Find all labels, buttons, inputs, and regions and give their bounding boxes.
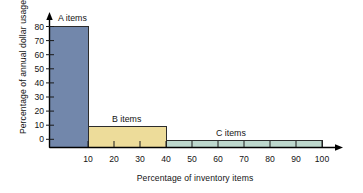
series-label-a-items: A items: [58, 13, 87, 23]
series-label-c-items: C items: [216, 128, 246, 138]
series-label-b-items: B items: [112, 114, 141, 124]
chart-container: Percentage of annual dollar usage Percen…: [0, 0, 363, 193]
bar-b-items[interactable]: [89, 127, 167, 148]
bar-a-items[interactable]: [50, 27, 89, 148]
plot-area: [0, 0, 363, 193]
